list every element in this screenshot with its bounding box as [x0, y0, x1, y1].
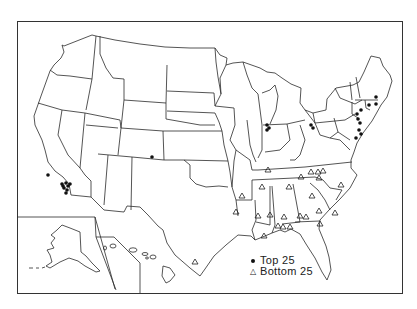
top-25-dot — [150, 155, 154, 159]
map-legend: Top 25 △ Bottom 25 — [246, 255, 313, 277]
top-25-dot — [359, 132, 363, 136]
bottom-25-triangle — [298, 174, 304, 179]
bottom-25-triangle — [275, 223, 281, 228]
bottom-25-triangle — [286, 184, 292, 189]
us-outline — [34, 35, 392, 280]
alaska — [29, 225, 100, 272]
top-25-dot — [309, 123, 313, 127]
bottom-25-triangle — [281, 214, 287, 219]
legend-item-bottom25: △ Bottom 25 — [246, 266, 313, 277]
top-25-dot — [367, 103, 371, 107]
top-25-markers — [46, 95, 378, 195]
top-25-dot — [64, 191, 68, 195]
top-25-dot — [62, 186, 66, 190]
state-borders — [34, 35, 392, 280]
triangle-icon: △ — [246, 266, 260, 277]
top-25-dot — [265, 123, 269, 127]
bottom-25-triangle — [233, 209, 239, 214]
top-25-dot — [374, 102, 378, 106]
bottom-25-triangle — [280, 224, 286, 229]
top-25-dot — [311, 126, 315, 130]
bottom-25-triangle — [309, 193, 315, 198]
top-25-dot — [354, 136, 358, 140]
bottom-25-triangle — [316, 208, 322, 213]
bottom-25-triangle — [332, 210, 338, 215]
bottom-25-triangle — [192, 259, 198, 264]
bottom-25-triangle — [297, 213, 303, 218]
us-map — [0, 0, 417, 309]
inset-boxes — [17, 217, 140, 293]
top-25-dot — [358, 121, 362, 125]
top-25-dot — [68, 182, 72, 186]
bottom-25-markers — [192, 167, 344, 264]
bottom-25-triangle — [239, 193, 245, 198]
hawaii — [104, 244, 176, 283]
top-25-dot — [357, 128, 361, 132]
bottom-25-triangle — [338, 182, 344, 187]
top-25-dot — [46, 173, 50, 177]
bottom-25-triangle — [303, 214, 309, 219]
bottom-25-triangle — [259, 184, 265, 189]
top-25-dot — [374, 95, 378, 99]
bottom-25-triangle — [287, 224, 293, 229]
bottom-25-triangle — [308, 169, 314, 174]
bottom-25-triangle — [320, 168, 326, 173]
legend-label-bottom25: Bottom 25 — [260, 266, 313, 277]
top-25-dot — [356, 117, 360, 121]
top-25-dot — [359, 108, 363, 112]
dot-icon — [246, 255, 260, 266]
map-frame — [18, 22, 403, 294]
top-25-dot — [265, 128, 269, 132]
top-25-dot — [355, 112, 359, 116]
top-25-dot — [64, 181, 68, 185]
